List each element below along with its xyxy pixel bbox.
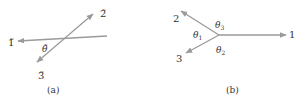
label-theta-3: θ3: [215, 20, 224, 31]
panel-a: 1̃ 2̃ 3̃ θ̃ (a): [8, 8, 107, 95]
label-theta-1: θ1: [193, 30, 202, 41]
vector-3: [186, 35, 219, 53]
label-3: 3: [176, 53, 182, 64]
panel-b: 1 2 3 θ3 θ1 θ2 (b): [173, 11, 295, 95]
diagram-canvas: 1̃ 2̃ 3̃ θ̃ (a) 1 2 3 θ3 θ1 θ2 (b): [0, 0, 299, 102]
label-3-tilde: 3̃: [38, 70, 44, 81]
label-1: 1: [289, 29, 295, 40]
vector-2: [181, 11, 219, 35]
vector-2-tilde: [65, 14, 93, 38]
caption-b: (b): [226, 85, 239, 95]
label-2-tilde: 2̃: [100, 8, 106, 19]
label-theta-2: θ2: [216, 45, 225, 56]
caption-a: (a): [47, 85, 59, 95]
label-1-tilde: 1̃: [8, 37, 14, 48]
label-2: 2: [173, 13, 179, 24]
label-theta-tilde: θ̃: [42, 44, 48, 54]
